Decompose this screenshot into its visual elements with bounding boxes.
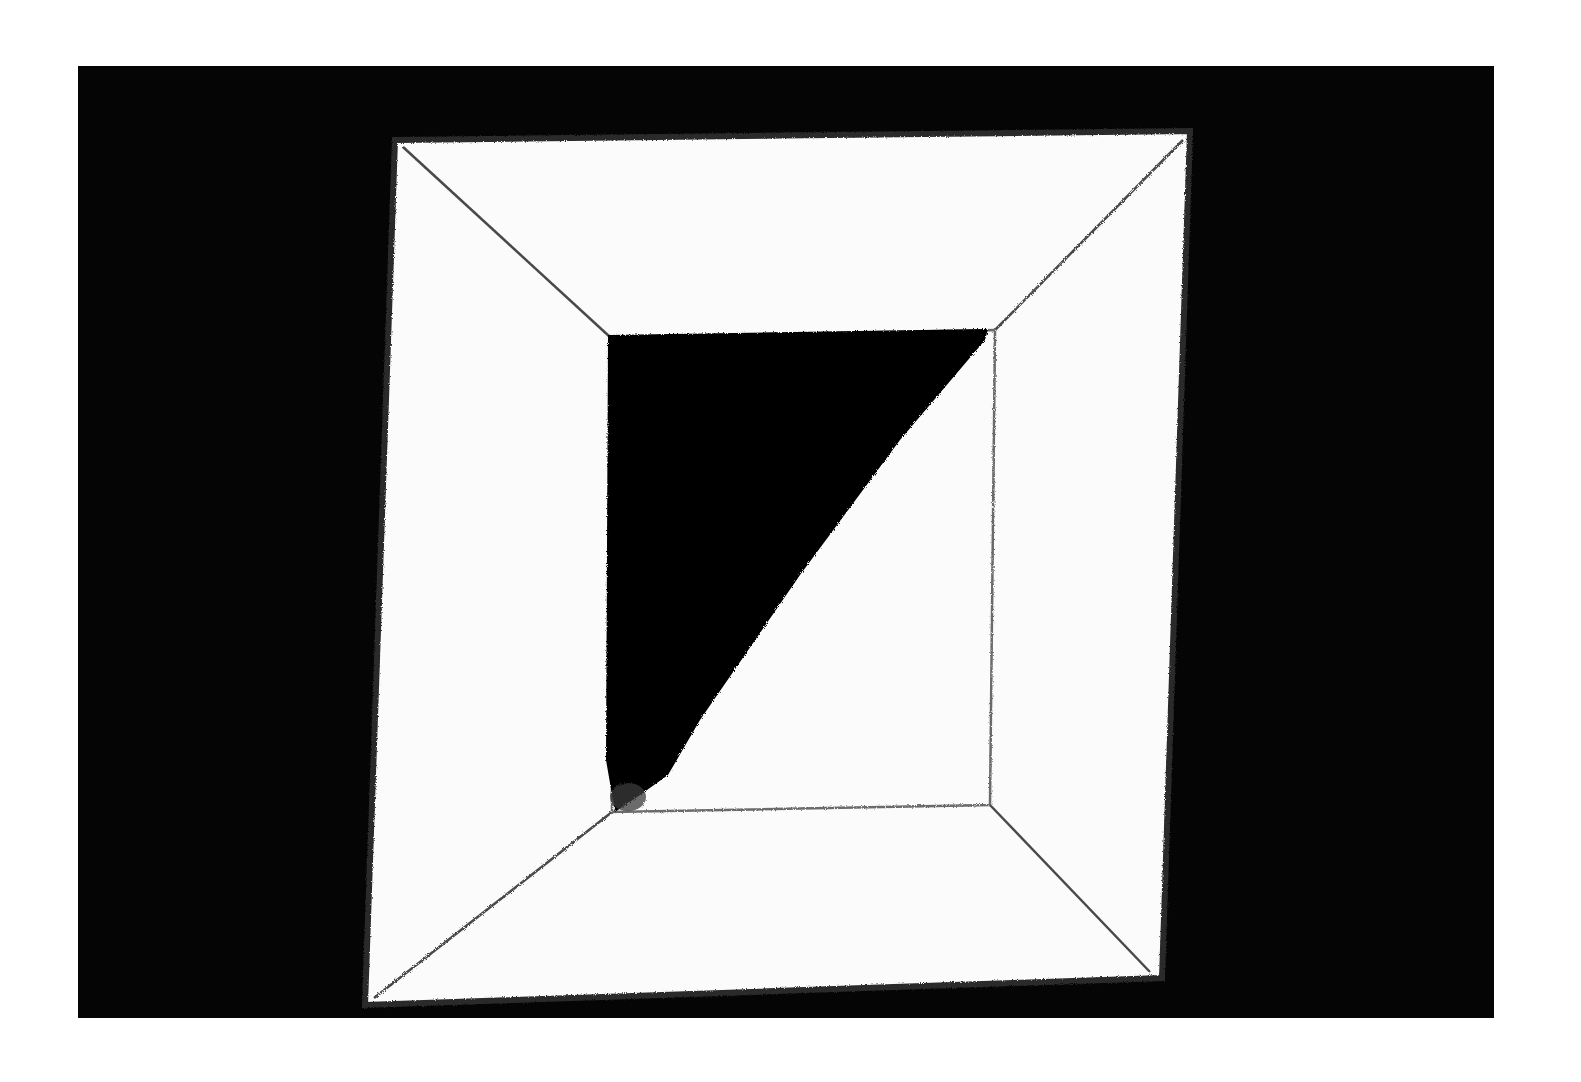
smudge-mark (610, 783, 646, 811)
artwork-photograph (0, 0, 1581, 1082)
